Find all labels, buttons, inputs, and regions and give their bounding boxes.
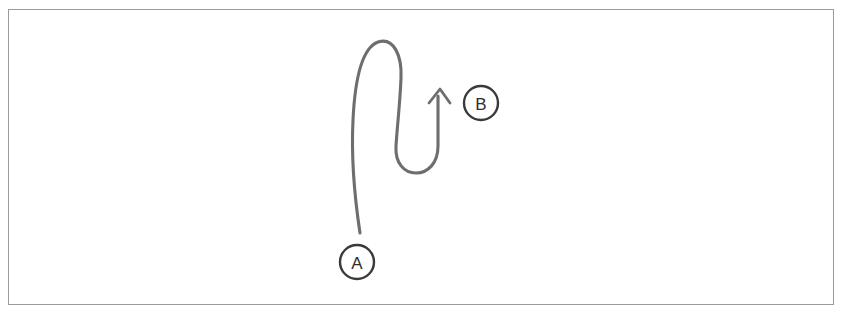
diagram-border bbox=[8, 9, 834, 305]
diagram-canvas: A B bbox=[0, 0, 844, 316]
